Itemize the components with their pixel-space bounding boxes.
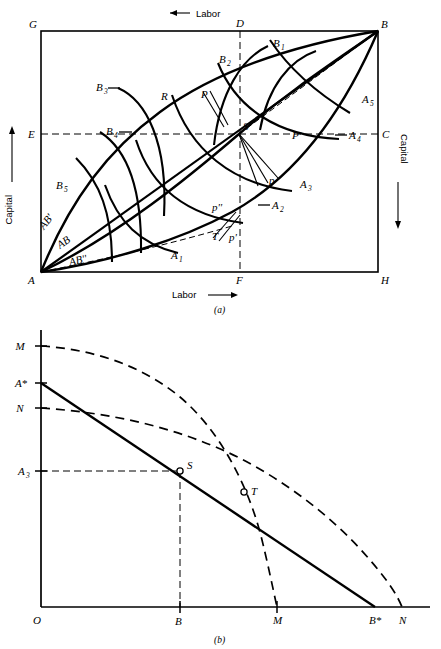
point-label-p-prime: p' [228,231,238,243]
ray-label-AB-prime: AB' [36,211,56,232]
point-label-P-prime: P' [291,129,302,141]
isoquant-sub-B3: 3 [103,87,108,96]
contract-curves [41,31,378,272]
isoquant-sub-B1: 1 [281,43,285,52]
isoquant-sub-A3: 3 [307,184,312,193]
panel-a: Labor [3,8,410,317]
bottom-labor-label: Labor [172,289,196,300]
y-tick-label-A-star: A* [14,377,28,389]
y-tick-sub-A3: 3 [25,471,30,480]
point-label-p: p [268,174,275,186]
top-labor-axis: Labor [170,8,220,19]
isoquant-A2 [136,140,243,223]
x-tick-label-B-star: B* [369,614,382,626]
right-capital-label: Capital [399,134,410,164]
isoquant-label-A5: A [361,93,369,105]
isoquant-label-B3: B [96,81,103,93]
point-label-P: P [200,88,208,100]
x-tick-label-M: M [272,614,283,626]
panel-b-caption: (b) [214,635,225,646]
right-arrow-icon [231,292,238,298]
economics-figure: Labor [0,0,441,649]
y-tick-label-N: N [15,402,24,414]
isoquant-B5 [76,158,112,262]
panel-a-caption: (a) [214,305,225,316]
isoquant-label-A2: A [271,199,279,211]
point-label-T: T [212,230,219,242]
isoquant-label-B1: B [273,37,280,49]
x-tick-label-O: O [33,614,41,626]
corner-label-D: D [235,17,244,29]
ray-label-AB-double-prime: AB'' [67,252,89,268]
y-tick-label-M: M [14,340,25,352]
a-star-b-star-line [41,383,375,607]
isoquant-sub-A2: 2 [280,205,284,214]
panel-b: S T M A* N A 3 O B M B* N (b) [14,330,430,646]
point-label-p-double-prime: p'' [211,201,223,213]
nn-frontier-curve [41,408,402,607]
isoquant-sub-B5: 5 [64,185,68,194]
corner-label-G: G [29,18,37,30]
corner-label-F: F [235,274,243,286]
isoquant-label-A1: A [170,249,178,261]
isoquant-sub-A4: 4 [357,135,361,144]
isoquant-label-A3: A [299,178,307,190]
isoquant-label-B2: B [219,53,226,65]
corner-label-C: C [382,128,390,140]
point-label-T-panel-b: T [251,485,258,497]
x-tick-label-B3: B [175,615,182,627]
isoquant-label-B5: B [56,179,63,191]
left-capital-axis: Capital [3,126,15,225]
isoquant-sub-A5: 5 [370,99,374,108]
y-tick-label-A3: A [17,465,25,477]
isoquant-sub-B2: 2 [227,59,231,68]
point-marker-T [241,489,247,495]
bottom-labor-axis: Labor [172,289,238,300]
point-label-S: S [243,120,249,132]
isoquant-label-B4: B [106,125,113,137]
corner-label-B: B [381,18,388,30]
corner-label-A: A [27,274,35,286]
x-tick-label-N: N [398,614,407,626]
left-arrow-icon [170,10,177,16]
left-capital-label: Capital [3,195,14,225]
top-labor-label: Labor [196,8,220,19]
right-capital-axis: Capital [395,134,410,229]
isoquant-b-labels: B 1 B 2 B 3 B 4 B 5 [56,37,285,194]
down-arrow-icon [395,221,401,229]
point-label-R: R [160,90,168,102]
point-label-S-panel-b: S [187,459,193,471]
corner-label-E: E [27,128,35,140]
corner-label-H: H [380,274,390,286]
isoquant-sub-A1: 1 [179,255,183,264]
point-marker-S [177,468,183,474]
isoquant-label-A4: A [348,129,356,141]
mm-frontier-curve [41,346,277,607]
up-arrow-icon [9,126,15,134]
isoquant-sub-B4: 4 [114,131,118,140]
